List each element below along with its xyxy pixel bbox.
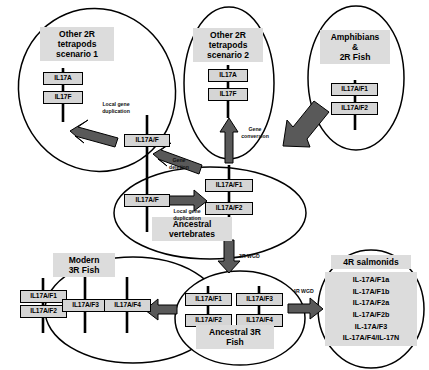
gene-box-scenario2-il17f: IL17F [208, 88, 248, 101]
group-title-4r-salmonids: 4R salmonids [331, 255, 411, 269]
gene-box-scenario2-il17a: IL17A [208, 69, 248, 82]
arrow-label-local-gene-duplication-center: Local gene duplication [164, 208, 210, 221]
salmonid-gene-1: IL-17A/F1a [325, 274, 417, 286]
salmonid-gene-6: IL-17A/F4/IL-17N [325, 332, 417, 344]
gene-box-modern3r-il17af3: IL17A/F3 [62, 299, 109, 312]
salmonid-gene-5: IL-17A/F3 [325, 321, 417, 333]
arrow-label-4r-wgd: 4R WGD [293, 288, 323, 295]
gene-box-modern3r-il17af4: IL17A/F4 [104, 299, 151, 312]
salmonid-gene-4: IL-17A/F2b [325, 309, 417, 321]
group-title-ancestral-3r-fish: Ancestral 3R Fish [196, 325, 274, 349]
group-title-amphibians-2r-fish: Amphibians & 2R Fish [320, 30, 390, 64]
gene-box-amphibians-il17af2: IL17A/F2 [331, 102, 378, 115]
arrow-label-gene-deletion: Gene deletion [162, 157, 196, 170]
gene-list-4r-salmonids: IL-17A/F1a IL-17A/F1b IL-17A/F2a IL-17A/… [325, 272, 417, 346]
salmonid-gene-3: IL-17A/F2a [325, 297, 417, 309]
arrow-label-3r-wgd: 3R WGD [239, 253, 269, 260]
arrow-label-gene-conversion: Gene conversion [236, 126, 274, 139]
arrow-label-local-gene-duplication-top: Local gene duplication [93, 101, 139, 114]
gene-box-scenario1-il17f: IL17F [43, 91, 83, 104]
gene-box-modern3r-il17af2: IL17A/F2 [20, 305, 67, 318]
gene-box-ancestral3r-il17af3: IL17A/F3 [236, 293, 283, 306]
group-title-other-2r-tetrapods-scenario-1: Other 2R tetrapods scenario 1 [40, 27, 114, 61]
group-title-other-2r-tetrapods-scenario-2: Other 2R tetrapods scenario 2 [193, 28, 263, 62]
gene-box-amphibians-il17af1: IL17A/F1 [331, 83, 378, 96]
gene-box-ancestral3r-il17af1: IL17A/F1 [185, 293, 232, 306]
gene-box-ancestral-vert-il17af2: IL17A/F2 [205, 202, 253, 215]
figure-canvas: .ell { fill:#ffffff; stroke:#000000; str… [0, 0, 429, 370]
gene-box-il17af-upper: IL17A/F [124, 134, 170, 147]
gene-box-ancestral-vert-il17af1: IL17A/F1 [205, 179, 253, 192]
group-title-modern-3r-fish: Modern 3R Fish [53, 253, 115, 277]
gene-box-ancestral-vert-il17af: IL17A/F [124, 194, 170, 207]
gene-box-modern3r-il17af1: IL17A/F1 [20, 290, 67, 303]
salmonid-gene-2: IL-17A/F1b [325, 286, 417, 298]
gene-box-scenario1-il17a: IL17A [43, 72, 83, 85]
